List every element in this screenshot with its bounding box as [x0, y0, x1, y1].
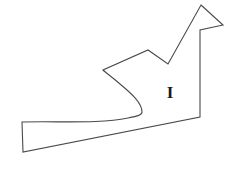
figure-outline-svg: [0, 0, 247, 169]
shape-outline-path: [22, 5, 223, 152]
region-label-i: I: [167, 84, 174, 101]
figure-canvas: I: [0, 0, 247, 169]
